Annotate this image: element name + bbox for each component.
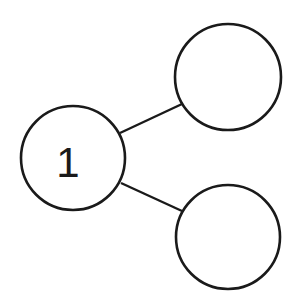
number-bond-diagram: 1 [0, 0, 300, 305]
whole-node: 1 [21, 106, 125, 210]
top-part-node[interactable] [175, 24, 281, 130]
edge-whole-to-bottom-part [121, 183, 182, 211]
edge-whole-to-top-part [120, 104, 182, 133]
bottom-part-node-circle[interactable] [176, 185, 280, 289]
top-part-node-circle[interactable] [175, 24, 281, 130]
bottom-part-node[interactable] [176, 185, 280, 289]
whole-node-label: 1 [56, 139, 79, 186]
